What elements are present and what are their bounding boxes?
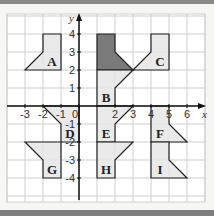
shape-label: E xyxy=(102,126,111,141)
y-tick-label: -1 xyxy=(65,118,75,130)
x-tick-label: -2 xyxy=(38,108,48,120)
x-tick-label: 4 xyxy=(148,108,154,120)
shape-label: G xyxy=(47,162,57,177)
coordinate-grid: ABCDEFGHI xy-3-2-10234564321-1-2-3-4 xyxy=(0,0,214,216)
y-tick-label: 4 xyxy=(69,28,75,40)
x-tick-label: -3 xyxy=(20,108,30,120)
x-tick-label: 6 xyxy=(184,108,190,120)
bottom-border xyxy=(0,210,214,216)
x-tick-label: 3 xyxy=(130,108,136,120)
y-tick-label: -3 xyxy=(65,154,75,166)
shape-label: F xyxy=(156,126,164,141)
y-tick-label: -2 xyxy=(65,136,75,148)
shape-label: H xyxy=(101,162,111,177)
y-tick-label: -4 xyxy=(65,172,75,184)
shape-label: I xyxy=(157,162,162,177)
y-tick-label: 1 xyxy=(69,82,75,94)
y-tick-label: 2 xyxy=(69,64,75,76)
y-tick-label: 3 xyxy=(69,46,75,58)
x-tick-label: 2 xyxy=(112,108,118,120)
shape-label: B xyxy=(102,90,111,105)
x-axis-label: x xyxy=(201,108,207,120)
shape-label: C xyxy=(155,54,164,69)
x-tick-label: 5 xyxy=(166,108,172,120)
y-axis-label: y xyxy=(68,12,74,24)
shape-label: A xyxy=(47,54,57,69)
